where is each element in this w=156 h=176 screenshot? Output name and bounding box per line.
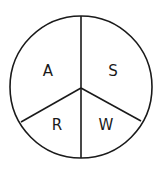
sector-diagram: A S R W — [0, 0, 156, 176]
circle-diagram-graphic — [0, 0, 156, 176]
sector-label-r: R — [52, 118, 62, 133]
sector-label-a: A — [43, 64, 53, 79]
sector-label-w: W — [99, 118, 114, 133]
sector-label-s: S — [108, 64, 118, 79]
